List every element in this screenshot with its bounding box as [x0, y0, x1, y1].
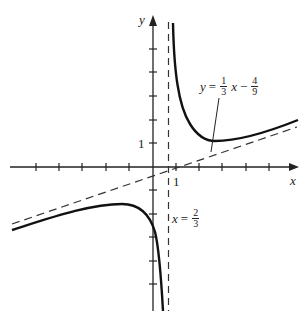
- oa-c2-den: 9: [252, 87, 257, 97]
- va-eq: =: [181, 212, 188, 225]
- y-tick-label-1: 1: [138, 137, 145, 150]
- va-den: 3: [193, 219, 198, 229]
- oa-minus: −: [240, 80, 247, 93]
- x-axis-arrow-icon: [289, 163, 299, 171]
- x-tick-label-1: 1: [173, 175, 180, 188]
- oa-var: y: [200, 80, 206, 93]
- va-var: x: [172, 212, 178, 225]
- oa-frac1: 1 3: [220, 76, 227, 97]
- oa-eq: =: [209, 80, 216, 93]
- oblique-asymptote: [12, 127, 297, 224]
- oa-frac2: 4 9: [251, 76, 258, 97]
- graph: [0, 0, 306, 311]
- x-axis-label: x: [290, 174, 296, 187]
- oa-x: x: [231, 80, 237, 93]
- y-axis-arrow-icon: [149, 15, 157, 26]
- y-axis-label: y: [139, 13, 145, 26]
- curve-left-branch: [12, 204, 163, 311]
- oblique-asymptote-label: y = 1 3 x − 4 9: [200, 76, 259, 97]
- vertical-asymptote-label: x = 2 3: [172, 208, 200, 229]
- va-fraction: 2 3: [192, 208, 199, 229]
- label-leader-line: [211, 98, 219, 152]
- oa-c1-den: 3: [221, 87, 226, 97]
